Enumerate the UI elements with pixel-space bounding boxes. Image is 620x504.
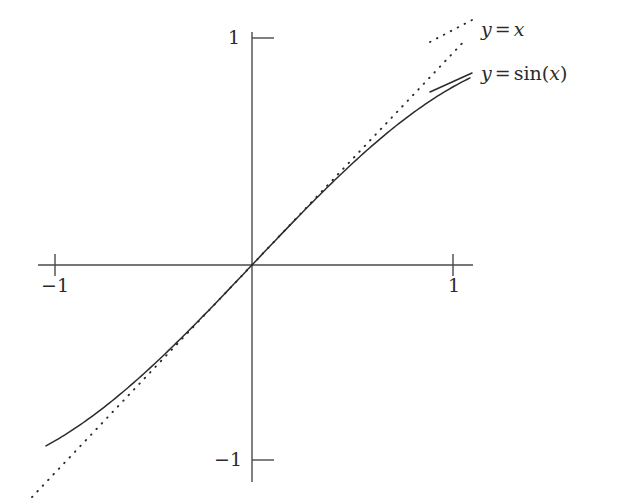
- legend-arg-x: x: [549, 62, 560, 84]
- x-axis-tick-label-neg1: −1: [41, 276, 69, 295]
- figure-canvas: y=x y=sin(x) 1 −1 −1 1: [0, 0, 620, 504]
- legend-swatch-y-eq-x: [430, 20, 472, 42]
- y-axis-tick-label-neg1: −1: [214, 450, 242, 469]
- x-axis-tick-label-1: 1: [448, 276, 460, 295]
- legend-lhs-y: y: [481, 18, 492, 40]
- legend-rhs-x: x: [514, 18, 525, 40]
- legend-label-y-eq-x: y=x: [481, 20, 524, 39]
- legend-operator-equals: =: [492, 18, 514, 40]
- tick-marks-group: [55, 38, 453, 460]
- legend-lhs-y-sin: y: [481, 62, 492, 84]
- series-curve-y-eq-sin-x: [46, 78, 470, 446]
- legend-label-y-eq-sin-x: y=sin(x): [481, 64, 567, 83]
- legend-function-name-sin: sin: [514, 62, 542, 84]
- legend-paren-close: ): [560, 62, 567, 84]
- y-axis-tick-label-1: 1: [228, 28, 240, 47]
- legend-operator-equals-sin: =: [492, 62, 514, 84]
- legend-swatch-y-eq-sin-x: [430, 73, 472, 92]
